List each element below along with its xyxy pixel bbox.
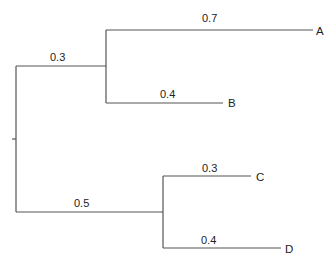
branch-leaf-a-length: 0.7	[202, 12, 217, 24]
branch-leaf-b-length: 0.4	[160, 88, 175, 100]
branch-lower-length: 0.5	[74, 197, 89, 209]
branch-leaf-d-length: 0.4	[201, 234, 216, 246]
branch-leaf-c-length: 0.3	[202, 162, 217, 174]
leaf-label-b: B	[228, 97, 236, 109]
leaf-label-c: C	[256, 171, 264, 183]
leaf-label-a: A	[316, 25, 324, 37]
leaf-label-d: D	[285, 243, 293, 255]
tree-diagram: 0.3 0.7 A 0.4 B 0.5 0.3 C 0.4 D	[0, 0, 336, 264]
branch-upper-length: 0.3	[50, 51, 65, 63]
